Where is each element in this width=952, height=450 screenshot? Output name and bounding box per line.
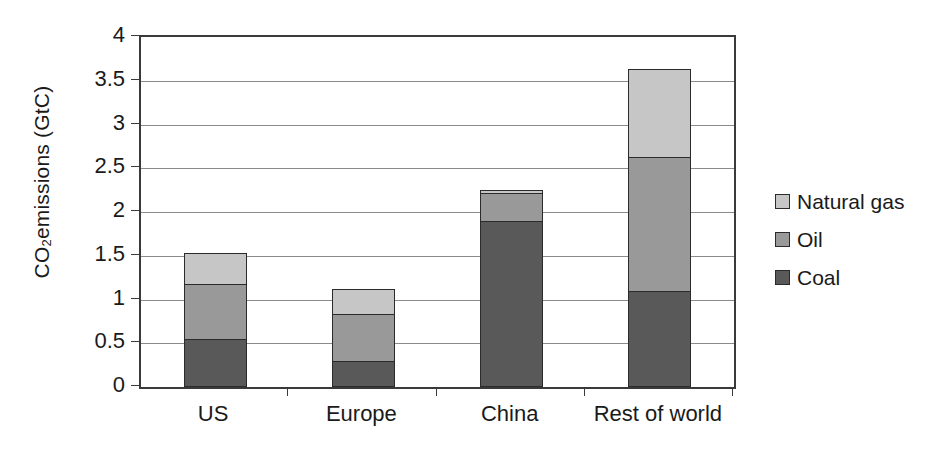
x-axis-tick-label: China (481, 400, 538, 429)
bar-europe (332, 289, 395, 387)
bar-segment-natural-gas (184, 253, 247, 284)
legend-swatch-icon (775, 270, 790, 285)
bar-segment-coal (332, 361, 395, 387)
y-axis-tick-label: 3.5 (65, 68, 125, 90)
chart-figure: CO2 emissions (GtC) 00.511.522.533.54 US… (0, 0, 952, 450)
y-axis-tick-labels: 00.511.522.533.54 (63, 35, 125, 385)
bar-segment-oil (332, 314, 395, 360)
y-axis-tick-label: 2.5 (65, 155, 125, 177)
y-axis-tick-label: 4 (65, 24, 125, 46)
y-axis-tick-label: 2 (65, 199, 125, 221)
y-axis-tick-mark (131, 298, 139, 299)
legend: Natural gasOilCoal (775, 182, 950, 296)
bar-segment-coal (184, 339, 247, 387)
y-axis-tick-label: 1.5 (65, 243, 125, 265)
y-axis-tick-label: 0.5 (65, 330, 125, 352)
legend-swatch-icon (775, 194, 790, 209)
x-axis-tick-mark (287, 387, 288, 396)
x-axis-tick-mark (584, 387, 585, 396)
bar-segment-oil (628, 157, 691, 291)
y-axis-tick-label: 3 (65, 112, 125, 134)
bar-us (184, 253, 247, 387)
legend-item-coal[interactable]: Coal (775, 258, 950, 296)
legend-swatch-icon (775, 232, 790, 247)
legend-label: Oil (797, 229, 823, 250)
legend-label: Natural gas (797, 191, 904, 212)
plot-area (139, 35, 736, 389)
legend-item-natural-gas[interactable]: Natural gas (775, 182, 950, 220)
y-axis-title-text-rest: emissions (GtC) (30, 86, 54, 240)
y-axis-tick-mark (131, 385, 139, 386)
y-axis-tick-mark (131, 254, 139, 255)
bar-segment-coal (480, 221, 543, 387)
y-axis-title-text-main: CO (30, 247, 54, 279)
y-axis-tick-mark (131, 341, 139, 342)
y-axis-tick-mark (131, 123, 139, 124)
y-axis-tick-label: 0 (65, 374, 125, 396)
x-axis-tick-labels: USEuropeChinaRest of world (139, 400, 732, 434)
y-axis-tick-mark (131, 35, 139, 36)
bar-segment-oil (184, 284, 247, 339)
y-axis-tick-mark (131, 166, 139, 167)
y-axis-title-subscript: 2 (39, 239, 54, 246)
bar-rest-of-world (628, 69, 691, 387)
bar-segment-natural-gas (628, 69, 691, 157)
legend-label: Coal (797, 267, 840, 288)
y-axis-tick-mark (131, 210, 139, 211)
legend-item-oil[interactable]: Oil (775, 220, 950, 258)
bar-china (480, 190, 543, 387)
y-axis-title: CO2 emissions (GtC) (22, 0, 62, 382)
bar-segment-natural-gas (332, 289, 395, 314)
x-axis-tick-label: US (198, 400, 229, 429)
x-axis-tick-label: Rest of world (594, 400, 722, 429)
x-axis-tick-label: Europe (326, 400, 397, 429)
y-axis-tick-mark (131, 79, 139, 80)
bar-segment-coal (628, 291, 691, 387)
x-axis-tick-mark (732, 387, 733, 396)
y-axis-tick-label: 1 (65, 287, 125, 309)
x-axis-tick-mark (436, 387, 437, 396)
bar-segment-oil (480, 193, 543, 221)
